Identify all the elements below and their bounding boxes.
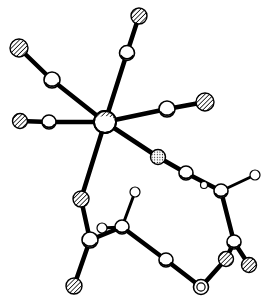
atom-X1 xyxy=(151,150,166,165)
atom-O6 xyxy=(242,258,257,273)
atom-O8 xyxy=(66,278,82,294)
bond-C8-C10 xyxy=(122,227,166,260)
bond-C6-C7 xyxy=(221,191,234,242)
atom-O5 xyxy=(219,252,234,267)
molecule-figure: Ball-and-stick molecular structure xyxy=(0,0,270,303)
atom-H3 xyxy=(97,223,107,233)
atom-C6 xyxy=(214,184,228,198)
atom-C3 xyxy=(120,46,135,61)
atom-C10 xyxy=(115,220,129,234)
atom-C4 xyxy=(159,101,175,117)
atom-H4 xyxy=(130,187,140,197)
atom-R1 xyxy=(194,280,209,295)
atoms-layer xyxy=(10,8,260,295)
atom-O2 xyxy=(13,114,28,129)
atom-M xyxy=(94,111,116,133)
atom-C5 xyxy=(179,166,193,180)
bonds-layer xyxy=(19,16,255,287)
atom-H2 xyxy=(250,170,260,180)
atom-O4 xyxy=(196,93,214,111)
atom-O1 xyxy=(10,39,28,57)
atom-H1 xyxy=(201,182,208,189)
atom-O3 xyxy=(131,8,147,24)
bond-M-O7 xyxy=(81,122,105,199)
atom-C9 xyxy=(82,232,98,248)
atom-C1 xyxy=(44,72,60,88)
molecule-diagram xyxy=(0,0,270,303)
atom-C8 xyxy=(159,253,173,267)
atom-O7 xyxy=(73,191,89,207)
atom-C7 xyxy=(227,235,241,249)
atom-C2 xyxy=(42,115,56,129)
